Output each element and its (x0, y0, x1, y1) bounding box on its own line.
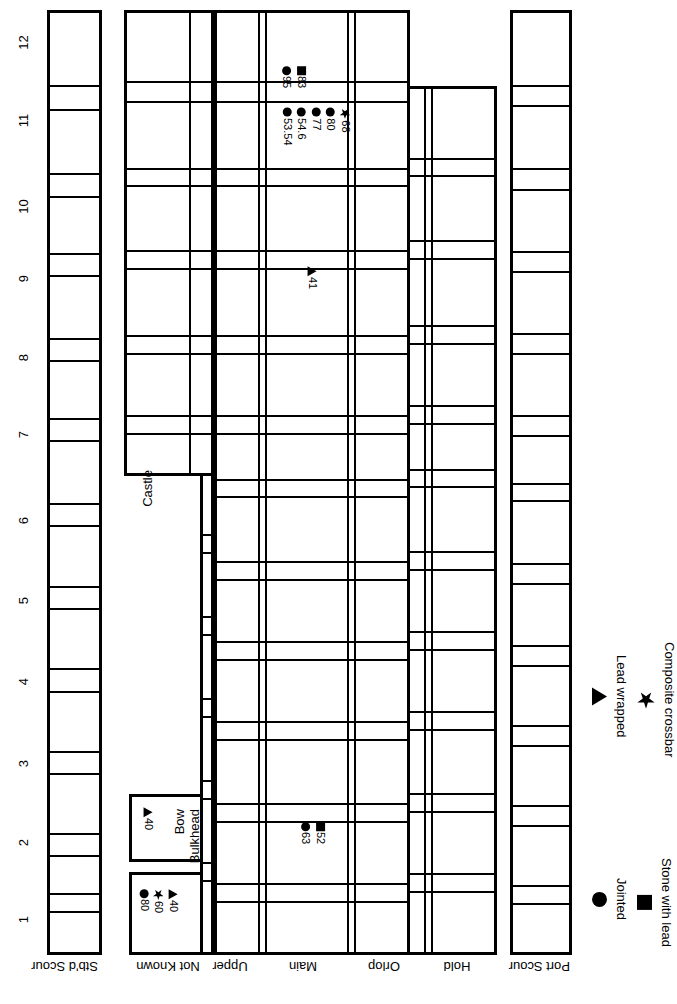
legend-item-jointed: Jointed (592, 878, 629, 920)
band-divider (50, 275, 99, 277)
band-divider (50, 525, 99, 527)
marker-label: 52 (315, 832, 327, 844)
deck-separator-main-left (258, 13, 260, 952)
bow-bulkhead-key-box: 40 Bow Bulkhead (129, 794, 207, 862)
frame-line (217, 81, 407, 83)
frame-line (410, 711, 494, 713)
key-marker-star: 60 (153, 889, 165, 913)
frame-line (410, 469, 494, 471)
row-label-main: Main (278, 960, 328, 973)
frame-line (217, 579, 407, 581)
frame-line (217, 803, 407, 805)
circle-icon (301, 822, 310, 831)
band-divider (50, 109, 99, 111)
marker-square-52: 52 (315, 822, 327, 844)
deck-grid-line (127, 250, 211, 252)
frame-tick-9: 9 (17, 262, 30, 296)
circle-icon (282, 108, 291, 117)
deck-separator-hold-2 (431, 89, 433, 952)
deck-grid-line (127, 353, 211, 355)
marker-group-upper-11: 68 80 77 54.6 53.54 (281, 108, 351, 146)
triangle-icon (168, 889, 177, 899)
frame-tick-8: 8 (17, 341, 30, 375)
triangle-icon (592, 687, 607, 705)
marker-label: 63 (300, 832, 312, 844)
frame-line (217, 353, 407, 355)
circle-icon (311, 108, 320, 117)
frame-line (410, 569, 494, 571)
not-known-key-box: 40 60 80 (129, 872, 207, 955)
marker-circle-63: 63 (300, 822, 312, 844)
circle-icon (282, 66, 291, 75)
frame-line (410, 405, 494, 407)
legend-item-composite-crossbar: Composite crossbar (637, 642, 677, 758)
key-marker-label: 40 (142, 818, 154, 830)
deck-separator-hold (424, 89, 426, 952)
band-divider (50, 253, 99, 255)
frame-line (217, 250, 407, 252)
frame-line (410, 343, 494, 345)
frame-tick-12: 12 (17, 26, 30, 60)
marker-label: 77 (310, 118, 322, 130)
row-label-hold: Hold (432, 960, 482, 973)
frame-line (217, 101, 407, 103)
band-divider (50, 85, 99, 87)
frame-line (217, 479, 407, 481)
frame-line (410, 793, 494, 795)
band-divider (50, 418, 99, 420)
marker-label: 41 (306, 277, 318, 289)
band-divider (50, 751, 99, 753)
deck-grid-line (203, 716, 211, 718)
frame-line (217, 561, 407, 563)
marker-label: 83 (296, 76, 308, 88)
deck-grid-line (203, 862, 211, 864)
square-icon (297, 66, 306, 75)
marker-circle-80: 80 (325, 108, 337, 130)
frame-line (217, 433, 407, 435)
band-divider (50, 586, 99, 588)
key-marker-circle: 80 (138, 889, 150, 911)
marker-square-83: 83 (296, 66, 308, 88)
frame-tick-2: 2 (17, 826, 30, 860)
frame-line (410, 175, 494, 177)
marker-label: 95 (281, 76, 293, 88)
upper-deck-forward-block (200, 476, 214, 955)
row-label-port-scour: Port Scour (514, 960, 570, 973)
frame-tick-11: 11 (17, 104, 30, 138)
band-divider (513, 583, 569, 585)
band-divider (50, 773, 99, 775)
legend-item-lead-wrapped: Lead wrapped (592, 655, 629, 737)
legend-label: Jointed (614, 878, 629, 920)
circle-icon (326, 108, 335, 117)
band-divider (50, 440, 99, 442)
frame-line (410, 729, 494, 731)
band-divider (513, 435, 569, 437)
deck-grid-line (127, 168, 211, 170)
marker-star-68: 68 (339, 108, 351, 132)
deck-separator-orlop (347, 13, 349, 952)
band-divider (513, 85, 569, 87)
frame-tick-3: 3 (17, 747, 30, 781)
circle-icon (592, 891, 607, 906)
band-divider (50, 338, 99, 340)
port-scour-band (510, 10, 572, 955)
frame-line (217, 883, 407, 885)
band-divider (50, 503, 99, 505)
star-icon (153, 889, 164, 900)
marker-circle-77: 77 (310, 108, 322, 130)
band-divider (513, 189, 569, 191)
deck-separator-orlop-2 (354, 13, 356, 952)
band-divider (513, 645, 569, 647)
marker-circle-53-54: 53.54 (281, 108, 293, 146)
key-marker-label: 80 (138, 899, 150, 911)
square-icon (637, 895, 652, 910)
band-divider (513, 903, 569, 905)
deck-grid-line (127, 81, 211, 83)
frame-line (217, 415, 407, 417)
band-divider (50, 691, 99, 693)
band-divider (513, 500, 569, 502)
band-divider (513, 665, 569, 667)
deck-grid-line (189, 13, 191, 473)
marker-circle-95: 95 (281, 66, 293, 88)
key-marker-label: 40 (167, 900, 179, 912)
